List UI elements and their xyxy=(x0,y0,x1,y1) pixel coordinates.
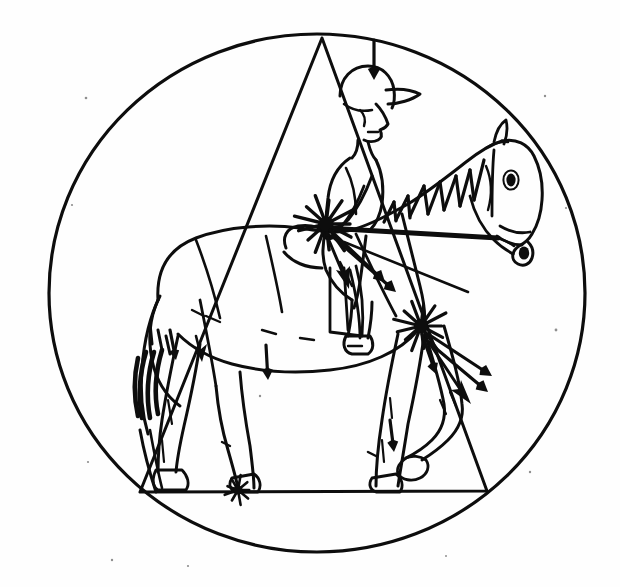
paper-background xyxy=(0,0,620,587)
horse-rider-force-diagram: Horse and Rider Biomechanics Diagram xyxy=(0,0,620,587)
figure-root: Horse and Rider Biomechanics Diagram xyxy=(0,0,620,587)
horse-eye-icon xyxy=(506,174,515,187)
horse-nostril-icon xyxy=(519,246,529,259)
